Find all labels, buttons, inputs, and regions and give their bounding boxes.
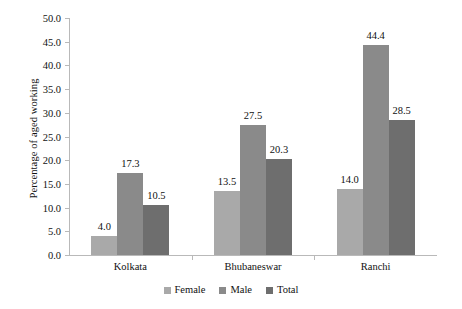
legend-item[interactable]: Female bbox=[164, 285, 206, 296]
x-axis-category-label: Kolkata bbox=[114, 261, 147, 272]
legend-item[interactable]: Male bbox=[219, 285, 252, 296]
plot-area: 0.05.010.015.020.025.030.035.040.045.050… bbox=[69, 18, 437, 255]
y-axis-line bbox=[69, 18, 70, 255]
y-axis-tick bbox=[65, 208, 69, 209]
y-axis-tick-label: 20.0 bbox=[43, 155, 61, 166]
bar-value-label: 13.5 bbox=[218, 176, 236, 187]
bar-value-label: 14.0 bbox=[340, 174, 358, 185]
y-axis-tick bbox=[65, 89, 69, 90]
legend-swatch-icon bbox=[219, 287, 226, 294]
x-axis-tick bbox=[314, 255, 315, 260]
bar-value-label: 10.5 bbox=[147, 190, 165, 201]
legend-label: Total bbox=[277, 285, 298, 296]
bar bbox=[266, 159, 292, 255]
legend-item[interactable]: Total bbox=[266, 285, 298, 296]
bar-value-label: 27.5 bbox=[244, 110, 262, 121]
y-axis-tick-label: 40.0 bbox=[43, 60, 61, 71]
y-axis-tick bbox=[65, 184, 69, 185]
y-axis-tick-label: 35.0 bbox=[43, 84, 61, 95]
bar-chart: Percentage of aged working 0.05.010.015.… bbox=[0, 0, 462, 309]
bar-value-label: 28.5 bbox=[392, 105, 410, 116]
y-axis-tick bbox=[65, 65, 69, 66]
bar bbox=[143, 205, 169, 255]
bar-value-label: 17.3 bbox=[121, 158, 139, 169]
bar bbox=[363, 45, 389, 255]
bar-value-label: 4.0 bbox=[98, 221, 111, 232]
bar bbox=[214, 191, 240, 255]
y-axis-tick bbox=[65, 113, 69, 114]
legend: FemaleMaleTotal bbox=[0, 285, 462, 296]
y-axis-tick bbox=[65, 160, 69, 161]
bar bbox=[337, 189, 363, 255]
bar bbox=[389, 120, 415, 255]
y-axis-tick bbox=[65, 231, 69, 232]
x-axis-line bbox=[69, 255, 437, 256]
y-axis-tick bbox=[65, 18, 69, 19]
y-axis-tick-label: 50.0 bbox=[43, 13, 61, 24]
y-axis-tick-label: 15.0 bbox=[43, 178, 61, 189]
x-axis-category-label: Bhubaneswar bbox=[224, 261, 281, 272]
y-axis-tick-label: 0.0 bbox=[48, 250, 61, 261]
bar bbox=[91, 236, 117, 255]
x-axis-tick bbox=[192, 255, 193, 260]
legend-label: Male bbox=[230, 285, 252, 296]
y-axis-title: Percentage of aged working bbox=[28, 34, 39, 244]
y-axis-tick bbox=[65, 255, 69, 256]
y-axis-tick-label: 10.0 bbox=[43, 202, 61, 213]
y-axis-tick-label: 45.0 bbox=[43, 36, 61, 47]
bar-value-label: 20.3 bbox=[270, 144, 288, 155]
bar bbox=[117, 173, 143, 255]
legend-swatch-icon bbox=[266, 287, 273, 294]
y-axis-tick bbox=[65, 137, 69, 138]
bar-value-label: 44.4 bbox=[366, 30, 384, 41]
y-axis-tick bbox=[65, 42, 69, 43]
legend-swatch-icon bbox=[164, 287, 171, 294]
y-axis-tick-label: 25.0 bbox=[43, 131, 61, 142]
y-axis-tick-label: 30.0 bbox=[43, 107, 61, 118]
bar bbox=[240, 125, 266, 255]
legend-label: Female bbox=[175, 285, 206, 296]
x-axis-category-label: Ranchi bbox=[361, 261, 391, 272]
y-axis-tick-label: 5.0 bbox=[48, 226, 61, 237]
